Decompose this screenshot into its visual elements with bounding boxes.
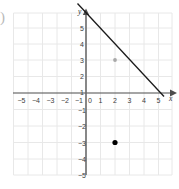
x-tick-label-3: 3 [125, 97, 134, 104]
x-tick-label-2: 2 [111, 97, 120, 104]
x-tick-label--1: −1 [73, 97, 85, 104]
y-tick-label--3: −3 [73, 140, 86, 147]
origin-label: 0 [88, 97, 92, 104]
y-tick-label-1: 1 [75, 89, 84, 96]
line-series [78, 4, 165, 97]
x-axis-label: x [169, 95, 172, 103]
x-tick-label--3: −3 [45, 97, 57, 104]
x-tick-label-1: 1 [96, 97, 105, 104]
y-tick-label--1: −1 [73, 107, 86, 114]
y-tick-label--5: −5 [73, 172, 86, 179]
y-tick-label-5: 5 [75, 25, 84, 32]
line-marker-point [113, 58, 117, 62]
x-tick-label--4: −4 [30, 97, 42, 104]
grid-lines [14, 13, 173, 175]
x-axis [13, 90, 177, 97]
x-tick-label--2: −2 [59, 97, 71, 104]
plotted-point [112, 140, 117, 145]
y-tick-label-2: 2 [75, 73, 84, 80]
y-tick-label-3: 3 [75, 57, 84, 64]
x-tick-label--5: −5 [16, 97, 28, 104]
y-tick-label-4: 4 [75, 41, 84, 48]
graph-figure: ) [0, 0, 179, 189]
y-tick-label--4: −4 [73, 156, 86, 163]
x-tick-label-4: 4 [140, 97, 149, 104]
y-axis-label: y [78, 8, 81, 16]
x-tick-label-5: 5 [154, 97, 163, 104]
y-tick-label--2: −2 [73, 123, 86, 130]
coordinate-plane [0, 0, 179, 189]
